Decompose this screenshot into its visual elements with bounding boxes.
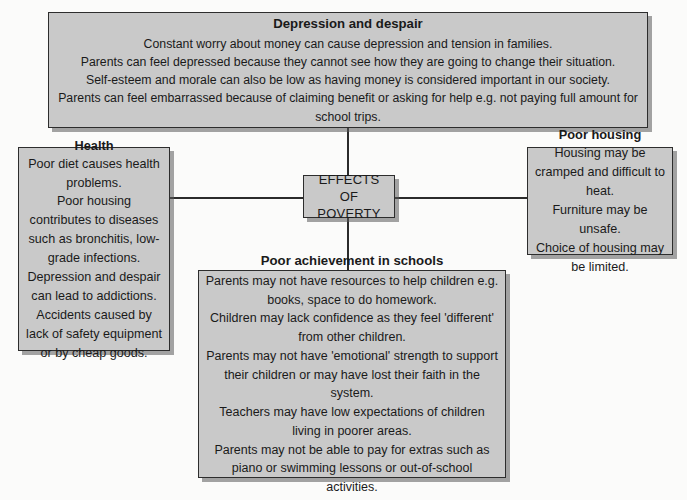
node-health-line-3: Depression and despair can lead to addic… bbox=[25, 268, 163, 306]
center-label-line-2: POVERTY bbox=[317, 205, 380, 222]
node-depression-title: Depression and despair bbox=[273, 14, 423, 34]
node-school-line-4: Teachers may have low expectations of ch… bbox=[205, 403, 499, 441]
node-health: Health Poor diet causes health problems.… bbox=[18, 147, 170, 351]
node-school-title: Poor achievement in schools bbox=[261, 251, 443, 271]
center-label-line-1: EFFECTS OF bbox=[310, 171, 388, 205]
node-effects-of-poverty: EFFECTS OF POVERTY bbox=[303, 175, 395, 218]
node-poor-achievement-in-schools: Poor achievement in schools Parents may … bbox=[198, 270, 506, 478]
node-school-line-3: Parents may not have 'emotional' strengt… bbox=[205, 347, 499, 403]
node-school-line-1: Parents may not have resources to help c… bbox=[205, 272, 499, 310]
node-school-line-5: Parents may not be able to pay for extra… bbox=[205, 441, 499, 497]
node-health-title: Health bbox=[74, 136, 113, 155]
connector-center-to-health bbox=[169, 197, 305, 199]
node-depression-line-4: Parents can feel embarrassed because of … bbox=[55, 89, 641, 125]
diagram-canvas: Depression and despair Constant worry ab… bbox=[0, 0, 687, 500]
node-housing-line-1: Housing may be cramped and difficult to … bbox=[534, 144, 666, 201]
node-poor-housing: Poor housing Housing may be cramped and … bbox=[527, 147, 673, 255]
node-health-line-2: Poor housing contributes to diseases suc… bbox=[25, 192, 163, 268]
node-depression-and-despair: Depression and despair Constant worry ab… bbox=[48, 12, 648, 128]
node-depression-line-2: Parents can feel depressed because they … bbox=[81, 53, 616, 71]
node-housing-line-3: Choice of housing may be limited. bbox=[534, 239, 666, 277]
node-school-line-2: Children may lack confidence as they fee… bbox=[205, 309, 499, 347]
connector-center-to-depression bbox=[347, 127, 349, 177]
node-health-line-4: Accidents caused by lack of safety equip… bbox=[25, 306, 163, 363]
node-depression-line-3: Self-esteem and morale can also be low a… bbox=[86, 71, 610, 89]
connector-center-to-housing bbox=[393, 197, 529, 199]
node-depression-line-1: Constant worry about money can cause dep… bbox=[144, 35, 553, 53]
node-housing-title: Poor housing bbox=[559, 125, 641, 144]
node-housing-line-2: Furniture may be unsafe. bbox=[534, 201, 666, 239]
node-health-line-1: Poor diet causes health problems. bbox=[25, 155, 163, 193]
